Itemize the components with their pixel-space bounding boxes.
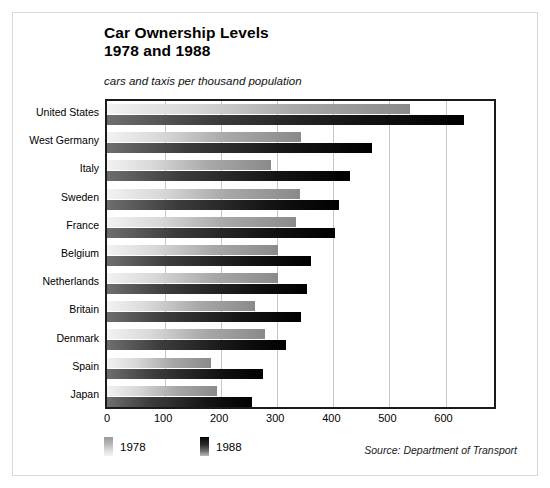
bar-group — [107, 298, 494, 326]
bar-group — [107, 242, 494, 270]
bar-group — [107, 157, 494, 185]
x-axis-labels: 0100200300400500600 — [105, 412, 496, 430]
title-line-1: Car Ownership Levels — [104, 24, 504, 42]
y-axis-labels: United StatesWest GermanyItalySwedenFran… — [0, 99, 99, 409]
y-axis-label: Belgium — [0, 247, 99, 259]
bar — [107, 160, 271, 170]
chart-figure: Car Ownership Levels 1978 and 1988 cars … — [0, 0, 550, 488]
legend-item-1978[interactable]: 1978 — [104, 437, 146, 456]
bar — [107, 358, 211, 368]
x-axis-tick-label: 300 — [266, 412, 284, 424]
x-axis-tick-label: 200 — [210, 412, 228, 424]
source-note: Source: Department of Transport — [364, 444, 517, 456]
legend-swatch-icon — [104, 437, 113, 456]
x-axis-tick-label: 500 — [378, 412, 396, 424]
bar — [107, 312, 301, 322]
legend-label: 1978 — [120, 441, 146, 453]
bar — [107, 132, 301, 142]
bar — [107, 301, 255, 311]
x-axis-tick-label: 100 — [154, 412, 172, 424]
plot-area — [105, 99, 496, 409]
legend-label: 1988 — [216, 441, 242, 453]
y-axis-label: West Germany — [0, 134, 99, 146]
y-axis-label: Britain — [0, 303, 99, 315]
bar — [107, 115, 464, 125]
y-axis-label: Denmark — [0, 332, 99, 344]
title-line-2: 1978 and 1988 — [104, 42, 504, 60]
legend-item-1988[interactable]: 1988 — [200, 437, 242, 456]
bar-group — [107, 101, 494, 129]
bar — [107, 143, 372, 153]
bar — [107, 171, 350, 181]
chart-title: Car Ownership Levels 1978 and 1988 — [104, 24, 504, 60]
bar — [107, 397, 252, 407]
bar-group — [107, 355, 494, 383]
bar-group — [107, 270, 494, 298]
bar — [107, 273, 278, 283]
bar-group — [107, 129, 494, 157]
bar — [107, 256, 311, 266]
x-axis-tick-label: 600 — [434, 412, 452, 424]
bars-layer — [107, 101, 494, 407]
y-axis-label: Spain — [0, 360, 99, 372]
x-axis-tick-label: 400 — [322, 412, 340, 424]
bar-group — [107, 214, 494, 242]
y-axis-label: Japan — [0, 388, 99, 400]
bar — [107, 284, 307, 294]
y-axis-label: United States — [0, 106, 99, 118]
y-axis-label: France — [0, 219, 99, 231]
y-axis-label: Italy — [0, 162, 99, 174]
bar — [107, 200, 339, 210]
bar-group — [107, 383, 494, 409]
bar-group — [107, 186, 494, 214]
bar — [107, 245, 278, 255]
bar — [107, 329, 265, 339]
bar — [107, 228, 335, 238]
chart-subtitle: cars and taxis per thousand population — [104, 75, 302, 87]
x-axis-tick-label: 0 — [104, 412, 110, 424]
bar — [107, 189, 300, 199]
y-axis-label: Netherlands — [0, 275, 99, 287]
bar — [107, 340, 286, 350]
legend-swatch-icon — [200, 437, 209, 456]
bar — [107, 104, 410, 114]
y-axis-label: Sweden — [0, 191, 99, 203]
bar — [107, 386, 217, 396]
bar — [107, 217, 296, 227]
bar-group — [107, 326, 494, 354]
bar — [107, 369, 263, 379]
